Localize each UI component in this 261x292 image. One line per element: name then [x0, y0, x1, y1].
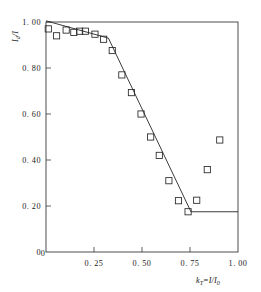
data-point-markers — [45, 26, 223, 215]
svg-text:Id/I: Id/I — [11, 30, 21, 43]
x-axis-title: kT=I/I0 — [196, 276, 220, 286]
data-point — [148, 134, 154, 140]
data-point — [166, 178, 172, 184]
data-point — [156, 152, 162, 158]
y-tick-labels: 0 0. 20 0. 40 0. 60 0. 80 1. 00 — [22, 18, 41, 257]
x-axis-title-rest: =I/I — [203, 276, 218, 285]
svg-text:kT=I/I0: kT=I/I0 — [196, 276, 220, 286]
x-tick-label-0: 0 — [41, 249, 46, 258]
model-fit-line — [46, 21, 238, 212]
x-axis-title-rest-sub: 0 — [217, 280, 220, 286]
plot-frame — [46, 22, 238, 252]
y-tick-label-3: 0. 60 — [22, 110, 41, 119]
data-point — [63, 27, 69, 33]
chart-figure: 0 0. 25 0. 50 0. 75 1. 00 0 0. 20 0. 40 … — [0, 0, 261, 292]
x-tick-label-4: 1. 00 — [229, 259, 248, 268]
x-tick-label-2: 0. 50 — [133, 259, 152, 268]
data-point — [53, 33, 59, 39]
data-point — [71, 29, 77, 35]
y-tick-label-5: 1. 00 — [22, 18, 41, 27]
y-tick-label-0: 0 — [36, 248, 41, 257]
x-axis-ticks — [94, 247, 190, 252]
data-point — [175, 198, 181, 204]
data-point — [119, 72, 125, 78]
y-axis-title: Id/I — [11, 30, 21, 43]
data-point — [217, 137, 223, 143]
y-tick-label-1: 0. 20 — [22, 202, 41, 211]
x-tick-label-1: 0. 25 — [85, 259, 104, 268]
data-point — [194, 197, 200, 203]
y-tick-label-2: 0. 40 — [22, 156, 41, 165]
y-tick-label-4: 0. 80 — [22, 64, 41, 73]
scatter-plot: 0 0. 25 0. 50 0. 75 1. 00 0 0. 20 0. 40 … — [0, 0, 261, 292]
x-tick-label-3: 0. 75 — [181, 259, 200, 268]
data-point — [204, 167, 210, 173]
y-axis-title-rest: /I — [11, 30, 20, 37]
y-axis-ticks — [46, 22, 51, 206]
